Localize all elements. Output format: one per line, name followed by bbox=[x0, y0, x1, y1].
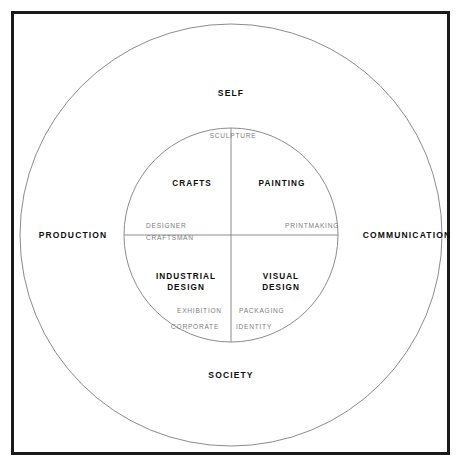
cardinal-label-communication: COMMUNICATION bbox=[363, 230, 451, 240]
axis-label-identity: IDENTITY bbox=[236, 323, 272, 330]
axis-label-exhibition: EXHIBITION bbox=[177, 307, 222, 314]
axis-label-packaging: PACKAGING bbox=[239, 307, 284, 314]
quadrant-label-visual-design-line1: VISUAL bbox=[262, 272, 300, 283]
cardinal-label-society: SOCIETY bbox=[208, 370, 253, 380]
axis-label-designer: DESIGNER bbox=[146, 222, 186, 229]
quadrant-label-industrial-design-line2: DESIGN bbox=[156, 283, 216, 294]
axis-label-sculpture: SCULPTURE bbox=[210, 132, 257, 139]
quadrant-label-industrial-design-line1: INDUSTRIAL bbox=[156, 272, 216, 283]
quadrant-label-visual-design: VISUAL DESIGN bbox=[262, 272, 300, 293]
diagram-page: SELF SOCIETY PRODUCTION COMMUNICATION CR… bbox=[0, 0, 462, 469]
cardinal-label-self: SELF bbox=[218, 88, 244, 98]
quadrant-label-crafts: CRAFTS bbox=[172, 179, 212, 190]
axis-label-corporate: CORPORATE bbox=[171, 323, 219, 330]
quadrant-label-painting: PAINTING bbox=[259, 179, 306, 190]
quadrant-label-industrial-design: INDUSTRIAL DESIGN bbox=[156, 272, 216, 293]
quadrant-label-visual-design-line2: DESIGN bbox=[262, 283, 300, 294]
axis-label-printmaking: PRINTMAKING bbox=[285, 222, 339, 229]
axis-label-craftsman: CRAFTSMAN bbox=[146, 234, 194, 241]
cardinal-label-production: PRODUCTION bbox=[39, 230, 108, 240]
